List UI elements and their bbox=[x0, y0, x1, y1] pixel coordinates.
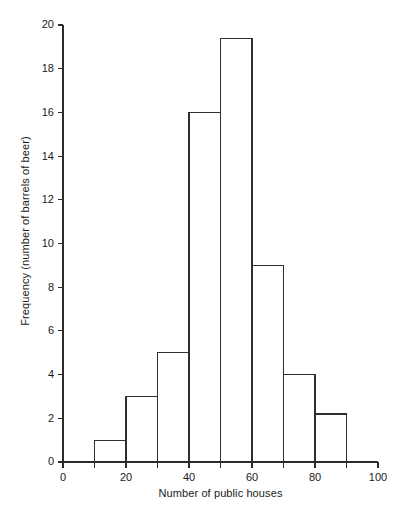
y-axis-tick-label: 20 bbox=[42, 18, 54, 30]
histogram-bar bbox=[126, 396, 158, 462]
y-axis-tick-label: 8 bbox=[48, 281, 54, 293]
y-axis-tick-label: 10 bbox=[42, 237, 54, 249]
histogram-bar bbox=[252, 265, 284, 462]
y-axis: 02468101214161820 bbox=[42, 18, 63, 467]
y-axis-tick-label: 0 bbox=[48, 455, 54, 467]
histogram-figure: Frequency (number of barrels of beer) Nu… bbox=[0, 0, 398, 522]
x-axis-tick-label: 40 bbox=[183, 471, 195, 483]
x-axis-tick-label: 60 bbox=[246, 471, 258, 483]
y-axis-tick-label: 6 bbox=[48, 324, 54, 336]
histogram-bar bbox=[158, 353, 190, 462]
histogram-bar bbox=[189, 112, 221, 462]
histogram-bar bbox=[95, 440, 127, 462]
histogram-bar bbox=[284, 375, 316, 462]
x-axis-tick-label: 100 bbox=[369, 471, 387, 483]
y-axis-tick-label: 2 bbox=[48, 412, 54, 424]
y-axis-tick-label: 4 bbox=[48, 368, 54, 380]
plot-area: 02468101214161820 020406080100 bbox=[0, 0, 398, 522]
histogram-bar bbox=[315, 414, 347, 462]
bars-group bbox=[95, 38, 347, 462]
x-axis-tick-label: 80 bbox=[309, 471, 321, 483]
y-axis-tick-label: 12 bbox=[42, 193, 54, 205]
x-axis: 020406080100 bbox=[60, 462, 387, 483]
x-axis-tick-label: 0 bbox=[60, 471, 66, 483]
y-axis-tick-label: 14 bbox=[42, 150, 54, 162]
y-axis-tick-label: 18 bbox=[42, 62, 54, 74]
histogram-bar bbox=[221, 38, 253, 462]
y-axis-tick-label: 16 bbox=[42, 106, 54, 118]
x-axis-tick-label: 20 bbox=[120, 471, 132, 483]
